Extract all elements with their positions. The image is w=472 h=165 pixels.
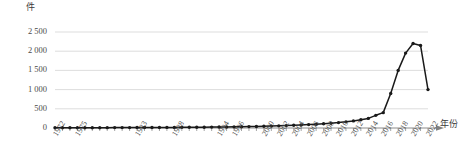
x-axis-tick-label: 2000 (260, 119, 276, 137)
x-axis-tick-label: 2012 (349, 119, 365, 137)
x-axis-tick-label: 1994 (215, 119, 231, 137)
x-axis-title: 年份 (440, 119, 458, 130)
x-axis-tick-label: 2010 (334, 119, 350, 137)
x-axis-tick-labels: 1972197519831988199419962000200220042006… (0, 0, 472, 165)
x-axis-tick-label: 1996 (230, 119, 246, 137)
x-axis-tick-label: 1983 (133, 119, 149, 137)
x-axis-tick-label: 2022 (424, 119, 440, 137)
x-axis-tick-label: 1988 (170, 119, 186, 137)
x-axis-tick-label: 2014 (364, 119, 380, 137)
chart-container: 件 05001 0001 5002 0002 500 1972197519831… (0, 0, 472, 165)
x-axis-tick-label: 2004 (290, 119, 306, 137)
x-axis-tick-label: 1972 (51, 119, 67, 137)
x-axis-tick-label: 1975 (73, 119, 89, 137)
x-axis-tick-label: 2008 (320, 119, 336, 137)
x-axis-tick-label: 2020 (409, 119, 425, 137)
x-axis-tick-label: 2002 (275, 119, 291, 137)
x-axis-tick-label: 2006 (305, 119, 321, 137)
x-axis-tick-label: 2016 (379, 119, 395, 137)
x-axis-tick-label: 2018 (394, 119, 410, 137)
